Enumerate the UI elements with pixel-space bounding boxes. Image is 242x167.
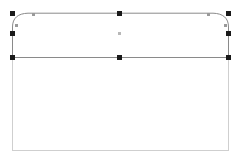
control-node-top-right[interactable]	[207, 13, 210, 16]
handle-top-left[interactable]	[10, 11, 15, 16]
handle-bottom-center[interactable]	[117, 55, 122, 60]
control-node-right-upper[interactable]	[224, 24, 227, 27]
handle-bottom-left[interactable]	[10, 55, 15, 60]
handle-top-right[interactable]	[226, 11, 231, 16]
handle-middle-left[interactable]	[10, 31, 15, 36]
control-node-top-left[interactable]	[32, 13, 35, 16]
envelope-body-rect[interactable]	[13, 58, 229, 151]
control-node-left-upper[interactable]	[15, 24, 18, 27]
envelope-flap-path[interactable]	[13, 13, 229, 57]
vector-artwork	[0, 0, 242, 167]
drawing-canvas[interactable]	[0, 0, 242, 167]
handle-top-center[interactable]	[117, 11, 122, 16]
handle-middle-right[interactable]	[226, 31, 231, 36]
handle-bottom-right[interactable]	[226, 55, 231, 60]
center-rotation-marker[interactable]	[118, 32, 121, 35]
